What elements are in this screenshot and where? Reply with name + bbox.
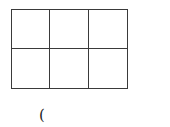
grid-cell-r2-c3 — [89, 49, 127, 88]
grid-cell-r2-c1 — [12, 49, 50, 88]
grid-2x3 — [11, 9, 128, 89]
grid-cell-r1-c3 — [89, 10, 127, 49]
grid-cell-r1-c1 — [12, 10, 50, 49]
grid-cell-r2-c2 — [50, 49, 88, 88]
caption-text: ( — [39, 107, 45, 124]
grid-cell-r1-c2 — [50, 10, 88, 49]
